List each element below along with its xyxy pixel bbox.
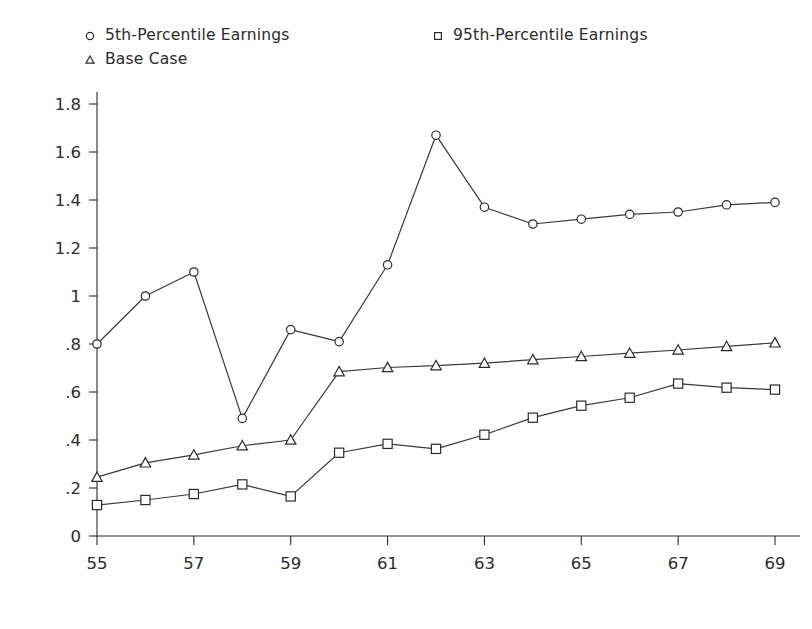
data-point-circle bbox=[626, 210, 634, 218]
x-tick-label: 55 bbox=[87, 554, 108, 573]
x-tick-label: 57 bbox=[183, 554, 204, 573]
data-point-square bbox=[577, 401, 586, 410]
series-polyline bbox=[97, 135, 775, 418]
y-tick-label: 1.2 bbox=[55, 239, 81, 258]
data-point-circle bbox=[771, 198, 779, 206]
data-point-square bbox=[92, 500, 101, 509]
data-point-triangle bbox=[286, 435, 296, 444]
x-tick-label: 65 bbox=[571, 554, 592, 573]
x-tick-label: 61 bbox=[377, 554, 398, 573]
data-point-circle bbox=[93, 340, 101, 348]
data-point-circle bbox=[238, 414, 246, 422]
square-marker-icon bbox=[430, 28, 446, 44]
data-point-square bbox=[770, 385, 779, 394]
y-tick-label: .2 bbox=[65, 479, 81, 498]
data-point-circle bbox=[722, 201, 730, 209]
data-point-square bbox=[431, 444, 440, 453]
data-point-circle bbox=[141, 292, 149, 300]
data-point-square bbox=[674, 379, 683, 388]
axes: 0.2.4.6.811.21.41.61.85557596163656769 bbox=[55, 92, 800, 573]
y-tick-label: .8 bbox=[65, 335, 81, 354]
data-point-circle bbox=[190, 268, 198, 276]
data-series bbox=[92, 131, 780, 510]
series-square bbox=[92, 379, 779, 510]
data-point-circle bbox=[674, 208, 682, 216]
data-point-circle bbox=[577, 215, 585, 223]
y-tick-label: .6 bbox=[65, 383, 81, 402]
data-point-square bbox=[480, 430, 489, 439]
y-tick-label: .4 bbox=[65, 431, 81, 450]
y-tick-label: 0 bbox=[71, 527, 82, 546]
data-point-square bbox=[189, 489, 198, 498]
x-tick-label: 69 bbox=[765, 554, 786, 573]
legend-label: Base Case bbox=[105, 52, 187, 68]
legend-item-base-case: Base Case bbox=[82, 52, 187, 68]
y-tick-label: 1.4 bbox=[55, 191, 81, 210]
triangle-marker-icon bbox=[82, 52, 98, 68]
data-point-square bbox=[722, 383, 731, 392]
data-point-circle bbox=[335, 337, 343, 345]
x-tick-label: 63 bbox=[474, 554, 495, 573]
data-point-circle bbox=[383, 261, 391, 269]
data-point-square bbox=[625, 393, 634, 402]
earnings-line-chart: 5th-Percentile Earnings Base Case 95th-P… bbox=[0, 0, 812, 629]
data-point-square bbox=[335, 448, 344, 457]
y-tick-label: 1 bbox=[71, 287, 82, 306]
legend-label: 5th-Percentile Earnings bbox=[105, 28, 290, 44]
data-point-square bbox=[286, 492, 295, 501]
data-point-circle bbox=[432, 131, 440, 139]
axis-lines bbox=[97, 92, 800, 536]
data-point-circle bbox=[529, 220, 537, 228]
x-tick-label: 59 bbox=[280, 554, 301, 573]
legend-label: 95th-Percentile Earnings bbox=[453, 28, 648, 44]
data-point-square bbox=[528, 413, 537, 422]
data-point-circle bbox=[287, 325, 295, 333]
y-tick-label: 1.6 bbox=[55, 143, 81, 162]
x-tick-label: 67 bbox=[668, 554, 689, 573]
data-point-square bbox=[383, 439, 392, 448]
legend-item-95th-percentile-earnings: 95th-Percentile Earnings bbox=[430, 28, 648, 44]
data-point-square bbox=[238, 480, 247, 489]
data-point-circle bbox=[480, 203, 488, 211]
data-point-triangle bbox=[770, 338, 780, 347]
legend-item-5th-percentile-earnings: 5th-Percentile Earnings bbox=[82, 28, 290, 44]
y-tick-label: 1.8 bbox=[55, 95, 81, 114]
chart-legend: 5th-Percentile Earnings Base Case 95th-P… bbox=[0, 0, 812, 90]
data-point-square bbox=[141, 495, 150, 504]
plot-area: 0.2.4.6.811.21.41.61.85557596163656769 bbox=[0, 0, 812, 629]
series-triangle bbox=[92, 338, 780, 482]
circle-marker-icon bbox=[82, 28, 98, 44]
